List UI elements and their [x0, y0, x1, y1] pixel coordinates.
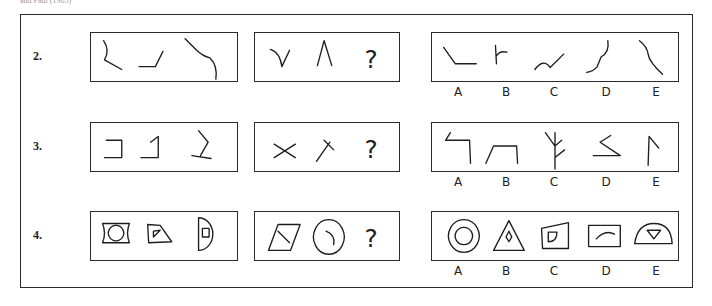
- option-figure-b: [495, 45, 507, 63]
- answer-options-box: [431, 32, 679, 82]
- option-label-d: D: [601, 175, 610, 189]
- source-caption: and Paul (1985): [20, 0, 71, 5]
- option-label-d: D: [601, 85, 610, 99]
- option-label-c: C: [550, 85, 558, 99]
- example-figure: [139, 51, 163, 66]
- question-figure: [317, 41, 331, 66]
- option-figure-c: [542, 223, 569, 249]
- row-number: 3.: [33, 139, 42, 154]
- example-figures-box: [90, 211, 238, 261]
- answer-options-box: [431, 122, 679, 172]
- question-mark: ?: [364, 224, 377, 253]
- option-figure-b: [486, 146, 518, 163]
- example-figure: [148, 224, 172, 242]
- option-label-c: C: [550, 175, 558, 189]
- example-figures-box: [90, 32, 238, 82]
- question-figures-box: ?: [254, 211, 400, 261]
- question-mark: ?: [364, 135, 377, 164]
- option-label-e: E: [652, 175, 660, 189]
- option-figure-b: [494, 221, 525, 251]
- option-figure-c: [535, 54, 564, 69]
- question-figure: [270, 49, 289, 66]
- option-label-d: D: [601, 264, 610, 278]
- option-label-c: C: [550, 264, 558, 278]
- option-figure-a: [448, 220, 479, 253]
- row-number: 4.: [33, 228, 42, 243]
- option-label-a: A: [454, 85, 462, 99]
- option-figure-e: [639, 41, 662, 75]
- question-figure: [314, 220, 345, 255]
- question-figure: [274, 144, 295, 157]
- option-label-e: E: [652, 264, 660, 278]
- example-figure: [192, 131, 211, 159]
- answer-options-box: [431, 211, 679, 261]
- option-label-b: B: [502, 85, 510, 99]
- question-figure: [316, 140, 333, 161]
- example-figure: [185, 39, 216, 79]
- option-label-b: B: [502, 175, 510, 189]
- option-figure-e: [635, 224, 672, 244]
- option-figure-c: [545, 133, 564, 169]
- option-figure-a: [446, 133, 471, 164]
- question-figures-box: ?: [254, 32, 400, 82]
- example-figure: [104, 41, 122, 70]
- option-figure-e: [648, 136, 659, 165]
- option-figure-d: [589, 225, 621, 246]
- option-figure-d: [593, 135, 620, 155]
- row-number: 2.: [33, 49, 42, 64]
- example-figure: [104, 140, 121, 157]
- option-label-a: A: [454, 264, 462, 278]
- example-figures-box: [90, 122, 238, 172]
- option-label-b: B: [502, 264, 510, 278]
- example-figure: [199, 218, 213, 251]
- option-figure-d: [587, 41, 608, 73]
- question-figure: [268, 224, 300, 250]
- option-label-a: A: [454, 175, 462, 189]
- option-label-e: E: [652, 85, 660, 99]
- option-figure-a: [444, 47, 477, 63]
- example-figure: [141, 136, 158, 157]
- question-mark: ?: [364, 45, 377, 74]
- question-figures-box: ?: [254, 122, 400, 172]
- example-figure: [103, 224, 130, 243]
